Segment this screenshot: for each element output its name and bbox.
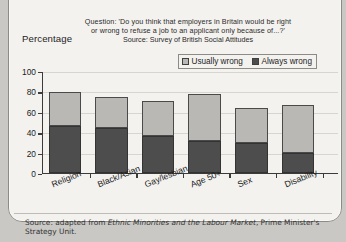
y-axis-tick-label: 60	[27, 108, 36, 118]
legend-label: Usually wrong	[192, 57, 243, 66]
question-line-1: Question: 'Do you think that employers i…	[38, 17, 338, 26]
y-axis-tick-label: 80	[27, 87, 36, 97]
survey-source-note: Source: Survey of British Social Attitud…	[88, 35, 288, 44]
plot-area: 020406080100ReligionBlack/AsianGay/lesbi…	[42, 72, 338, 174]
legend-item-usually-wrong: Usually wrong	[182, 57, 243, 66]
y-axis-tick-label: 0	[31, 169, 36, 179]
x-axis-label: Sex	[236, 174, 253, 189]
bar-sex	[235, 108, 268, 173]
y-axis-tick	[38, 174, 42, 175]
question-line-2: or wrong to refuse a job to an applicant…	[38, 26, 338, 35]
y-axis-tick	[38, 133, 42, 134]
legend-item-always-wrong: Always wrong	[252, 57, 312, 66]
bar-disability	[282, 105, 315, 173]
y-axis-tick	[38, 72, 42, 73]
source-prefix: Source: adapted from	[25, 218, 108, 227]
y-axis-title: Percentage	[22, 33, 72, 44]
bar-segment-always-wrong	[95, 128, 128, 173]
chart-figure: Question: 'Do you think that employers i…	[0, 0, 346, 242]
y-axis-tick	[38, 113, 42, 114]
x-axis-tick	[276, 173, 277, 178]
y-axis-tick-label: 20	[27, 149, 36, 159]
x-axis-tick	[90, 173, 91, 178]
y-axis-tick	[38, 154, 42, 155]
bar-black-asian	[95, 97, 128, 174]
bar-age-50-	[188, 94, 221, 173]
gridline	[43, 92, 338, 93]
legend-label: Always wrong	[261, 57, 312, 66]
bar-segment-always-wrong	[142, 136, 175, 173]
bar-segment-usually-wrong	[282, 105, 315, 153]
legend-swatch-icon	[182, 58, 189, 65]
bar-segment-always-wrong	[235, 143, 268, 173]
figure-source-caption: Source: adapted from Ethnic Minorities a…	[25, 218, 325, 237]
bar-segment-usually-wrong	[235, 108, 268, 144]
y-axis-tick-label: 40	[27, 128, 36, 138]
legend-swatch-icon	[252, 58, 259, 65]
bar-gay-lesbian	[142, 101, 175, 173]
bar-segment-usually-wrong	[142, 101, 175, 137]
x-axis-tick	[323, 173, 324, 178]
source-title: Ethnic Minorities and the Labour Market	[108, 218, 256, 227]
bar-segment-usually-wrong	[49, 92, 82, 126]
chart-legend: Usually wrong Always wrong	[178, 54, 317, 69]
bar-religion	[49, 92, 82, 173]
y-axis-tick	[38, 92, 42, 93]
bar-segment-always-wrong	[49, 126, 82, 173]
x-axis-tick	[229, 173, 230, 178]
bar-segment-usually-wrong	[95, 97, 128, 129]
footer-divider	[14, 213, 332, 214]
gridline	[43, 72, 338, 73]
y-axis-tick-label: 100	[22, 67, 36, 77]
bar-segment-usually-wrong	[188, 94, 221, 141]
